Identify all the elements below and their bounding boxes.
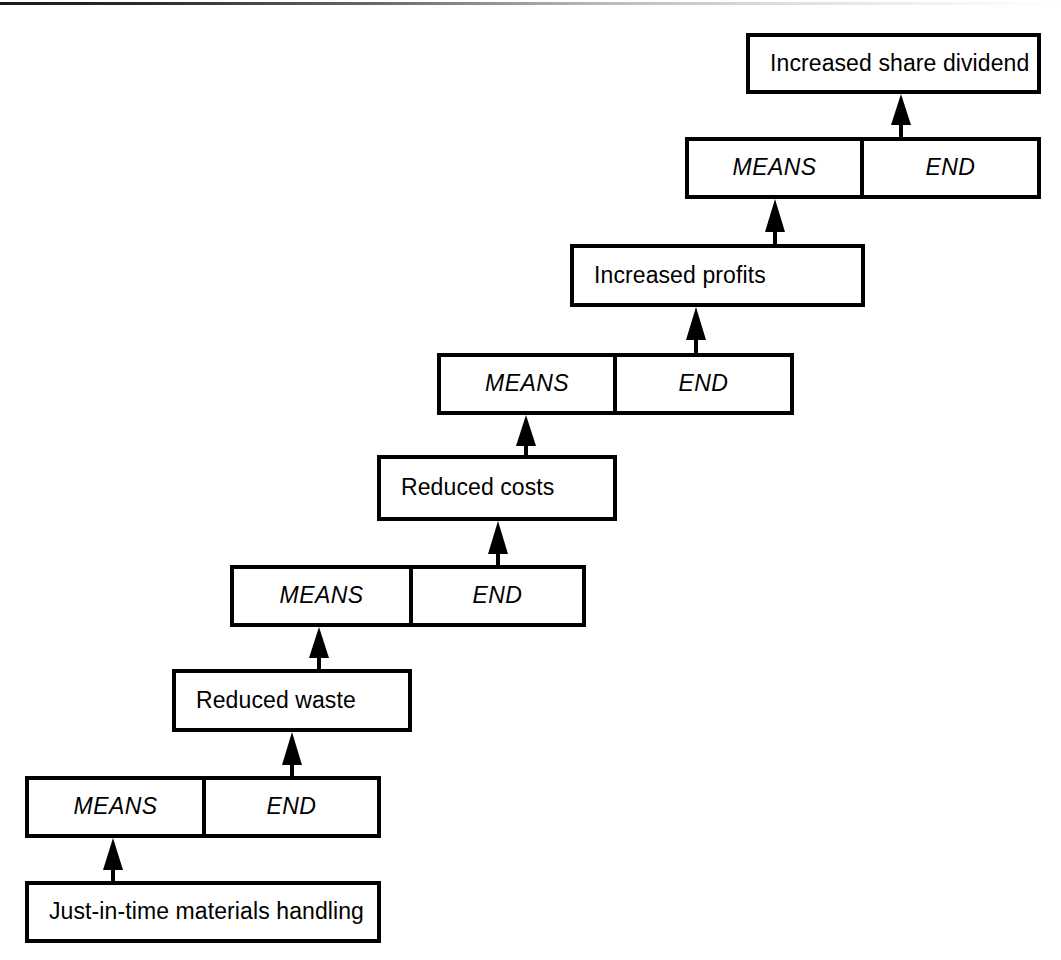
node-reduced-costs[interactable]: Reduced costs	[377, 455, 617, 521]
node-just-in-time-materials-handling[interactable]: Just-in-time materials handling	[25, 881, 381, 943]
split-cell-end-level-1[interactable]: END	[206, 780, 377, 834]
split-label-means-level-4: MEANS	[733, 155, 817, 180]
split-cell-end-level-3[interactable]: END	[617, 357, 790, 411]
arrow-end2-to-costs	[487, 521, 509, 567]
split-cell-end-level-2[interactable]: END	[413, 569, 582, 623]
node-increased-profits[interactable]: Increased profits	[570, 244, 865, 307]
split-box-level-2[interactable]: MEANS END	[230, 565, 586, 627]
split-cell-means-level-4[interactable]: MEANS	[689, 141, 864, 195]
split-cell-means-level-2[interactable]: MEANS	[234, 569, 413, 623]
node-increased-share-dividend[interactable]: Increased share dividend	[746, 33, 1041, 94]
split-box-level-4[interactable]: MEANS END	[685, 137, 1041, 199]
split-box-level-1[interactable]: MEANS END	[25, 776, 381, 838]
arrow-costs-to-means3	[515, 415, 537, 459]
arrow-jit-to-means1	[102, 838, 124, 883]
split-label-end-level-3: END	[679, 371, 729, 396]
split-label-means-level-3: MEANS	[485, 371, 569, 396]
node-label-increased-profits: Increased profits	[574, 263, 766, 288]
diagram-canvas: Increased share dividend MEANS END Incre…	[0, 0, 1061, 960]
page-edge-artifact	[0, 2, 1061, 5]
split-label-end-level-4: END	[926, 155, 976, 180]
node-label-just-in-time-materials-handling: Just-in-time materials handling	[29, 899, 364, 924]
arrow-end1-to-waste	[281, 732, 303, 778]
node-reduced-waste[interactable]: Reduced waste	[172, 669, 412, 732]
split-cell-means-level-1[interactable]: MEANS	[29, 780, 206, 834]
split-cell-end-level-4[interactable]: END	[864, 141, 1037, 195]
node-label-increased-share-dividend: Increased share dividend	[750, 51, 1029, 76]
split-label-end-level-2: END	[473, 583, 523, 608]
arrow-end3-to-profits	[685, 307, 707, 353]
split-label-means-level-1: MEANS	[74, 794, 158, 819]
arrow-waste-to-means2	[308, 627, 330, 671]
arrow-end4-to-dividend	[890, 94, 912, 138]
arrow-profits-to-means4	[764, 199, 786, 245]
split-label-end-level-1: END	[267, 794, 317, 819]
node-label-reduced-costs: Reduced costs	[381, 475, 554, 500]
split-cell-means-level-3[interactable]: MEANS	[441, 357, 617, 411]
split-label-means-level-2: MEANS	[280, 583, 364, 608]
node-label-reduced-waste: Reduced waste	[176, 688, 356, 713]
split-box-level-3[interactable]: MEANS END	[437, 353, 794, 415]
